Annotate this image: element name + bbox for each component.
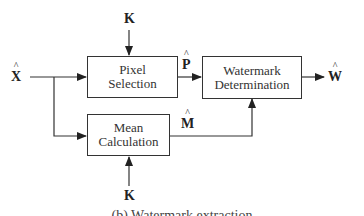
figure-caption: (b) Watermark extraction [0,208,364,216]
input-signal-label: X [11,69,21,85]
key-bottom-label: K [124,188,135,204]
pixel-selection-line2: Selection [108,77,156,91]
pixels-signal-label: P [182,57,191,73]
pixel-selection-line1: Pixel [119,63,146,77]
mean-calculation-line2: Calculation [99,135,159,149]
mean-calculation-block: Mean Calculation [87,114,170,156]
mean-calculation-line1: Mean [114,121,144,135]
watermark-determination-line2: Determination [214,78,289,92]
watermark-determination-line1: Watermark [223,64,280,78]
pixel-selection-block: Pixel Selection [87,56,178,98]
key-top-label: K [124,11,135,27]
mean-signal-label: M [181,116,194,132]
watermark-determination-block: Watermark Determination [202,56,302,99]
diagram-connections [0,0,364,216]
output-signal-label: W [328,69,342,85]
